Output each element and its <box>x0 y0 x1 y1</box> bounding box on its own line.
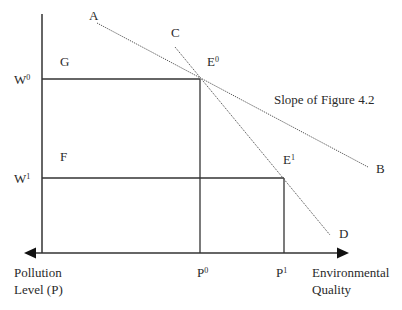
label-d: D <box>339 226 348 241</box>
label-p0: P0 <box>197 265 208 280</box>
region-label-g: G <box>60 54 69 69</box>
label-c: C <box>171 25 180 40</box>
region-label-f: F <box>60 149 67 164</box>
axis-label-pollution-line1: Pollution <box>14 264 63 281</box>
axis-label-pollution-line2: Level (P) <box>14 281 63 298</box>
axis-label-environmental-quality: Environmental Quality <box>312 264 389 298</box>
label-a: A <box>89 8 98 23</box>
line-cd <box>175 47 330 235</box>
label-e1: E1 <box>283 152 295 167</box>
axis-label-environmental-line1: Environmental <box>312 264 389 281</box>
axis-label-environmental-line2: Quality <box>312 281 389 298</box>
label-w0: W0 <box>14 72 30 87</box>
axis-label-pollution: Pollution Level (P) <box>14 264 63 298</box>
label-w1: W1 <box>14 171 30 186</box>
x-axis-left-arrow-icon <box>24 248 36 259</box>
x-axis-right-arrow-icon <box>337 248 349 259</box>
label-b: B <box>376 161 385 176</box>
label-e0: E0 <box>207 54 219 69</box>
label-p1: P1 <box>276 265 287 280</box>
annotation-slope: Slope of Figure 4.2 <box>274 92 374 107</box>
